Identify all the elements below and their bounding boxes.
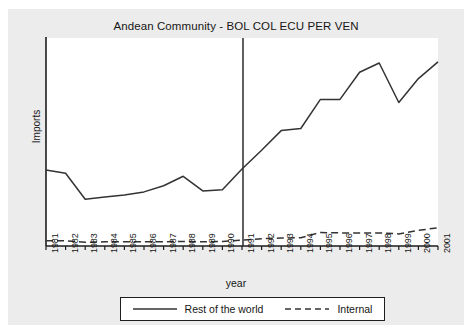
x-tick-label: 1994 [305,233,315,253]
figure-inner: Andean Community - BOL COL ECU PER VEN I… [8,9,464,325]
figure-background: Andean Community - BOL COL ECU PER VEN I… [8,9,464,325]
x-tick-label: 1997 [364,233,374,253]
x-tick-label: 1992 [266,233,276,253]
y-axis-label: Imports [31,97,42,157]
legend-entry: Internal [285,303,372,315]
x-tick-label: 1983 [89,233,99,253]
legend-label: Internal [337,303,372,315]
x-tick-label: 1986 [148,233,158,253]
x-tick-label: 1982 [70,233,80,253]
solid-line-icon [133,305,177,313]
x-tick-label: 1995 [324,233,334,253]
x-tick-label: 1985 [128,233,138,253]
x-tick-label: 1993 [285,233,295,253]
x-axis-ticks [46,246,438,250]
plot-background [46,38,438,246]
legend-entries: Rest of the worldInternal [121,298,384,320]
x-tick-label: 1996 [344,233,354,253]
x-axis-label: year [8,277,464,289]
x-tick-label: 1990 [226,233,236,253]
legend: Rest of the worldInternal [120,297,385,321]
legend-label: Rest of the world [185,303,264,315]
x-tick-label: 1988 [187,233,197,253]
x-tick-label: 1987 [168,233,178,253]
x-tick-label: 1984 [109,233,119,253]
x-tick-label: 1998 [383,233,393,253]
x-tick-label: 2000 [422,233,432,253]
chart-screenshot: Andean Community - BOL COL ECU PER VEN I… [0,0,472,334]
dashed-line-icon [285,305,329,313]
x-tick-label: 1989 [207,233,217,253]
x-tick-label: 1999 [403,233,413,253]
x-tick-label: 1991 [246,233,256,253]
x-tick-label: 2001 [442,233,452,253]
x-tick-label: 1981 [50,233,60,253]
legend-entry: Rest of the world [133,303,264,315]
